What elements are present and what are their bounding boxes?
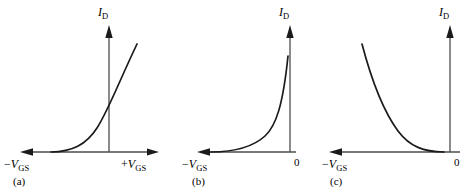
panel-a: ID −VGS +VGS (a) [0,0,160,195]
panel-a-x-axis-left-label: −VGS [4,158,29,170]
y-axis-arrowhead [446,25,453,38]
panel-a-caption: (a) [13,176,25,187]
panel-b-caption: (b) [192,176,205,187]
panel-b-y-axis-label: ID [279,6,289,18]
panel-c-y-axis-label: ID [439,6,449,18]
y-axis-arrowhead [286,25,293,38]
panel-b-x-axis-left-label: −VGS [182,158,207,170]
x-axis-right-arrowhead [147,148,159,155]
curve-c [362,44,444,152]
curve-b [211,56,288,152]
figure-mosfet-transfer-characteristics: ID −VGS +VGS (a) ID −VGS 0 (b) [0,0,473,195]
panel-b: ID −VGS 0 (b) [160,0,320,195]
curve-a [51,44,137,152]
x-axis-left-arrowhead [20,148,33,156]
panel-c: ID −VGS 0 (c) [320,0,473,195]
panel-b-origin-label: 0 [294,157,300,168]
panel-a-x-axis-right-label: +VGS [121,158,146,170]
x-axis-left-arrowhead [197,148,210,156]
panel-a-y-axis-label: ID [98,6,108,18]
y-axis-arrowhead [105,25,112,38]
panel-c-origin-label: 0 [454,157,460,168]
panel-c-caption: (c) [330,176,342,187]
x-axis-left-arrowhead [329,148,342,156]
panel-c-x-axis-left-label: −VGS [322,158,347,170]
